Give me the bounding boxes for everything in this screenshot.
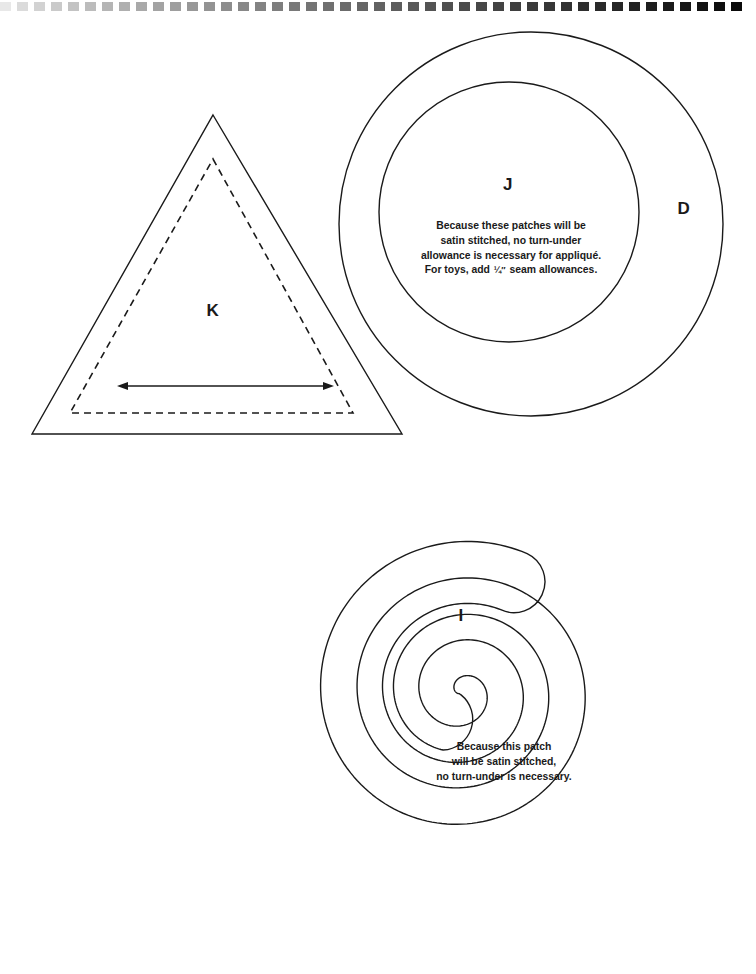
triangle-piece-k-group[interactable]: [32, 115, 402, 434]
circle-outline-j[interactable]: [379, 82, 639, 342]
note-text-after-fraction: seam allowances.: [507, 264, 598, 275]
note-line: no turn-under is necessary.: [436, 770, 572, 785]
note-line-with-fraction: For toys, add ¼″ seam allowances.: [421, 263, 601, 278]
note-line: allowance is necessary for appliqué.: [421, 249, 601, 264]
arrow-head-right-icon: [323, 382, 334, 390]
piece-label-i: I: [458, 606, 463, 626]
arrow-head-left-icon: [117, 382, 128, 390]
pattern-sheet-page: K D J I Because these patches will be sa…: [0, 0, 756, 974]
note-line: Because these patches will be: [421, 219, 601, 234]
triangle-seam-allowance-dashed-line: [70, 159, 353, 413]
note-text-before-fraction: For toys, add: [425, 264, 493, 275]
piece-label-j: J: [503, 175, 513, 195]
piece-label-k: K: [207, 301, 220, 321]
pattern-artwork: [0, 0, 756, 974]
note-line: satin stitched, no turn-under: [421, 234, 601, 249]
note-line: will be satin stitched,: [436, 755, 572, 770]
satin-stitch-instruction-note: Because this patch will be satin stitche…: [436, 740, 572, 784]
grainline-arrow: [117, 382, 334, 390]
note-line: Because this patch: [436, 740, 572, 755]
applique-instruction-note: Because these patches will be satin stit…: [421, 219, 601, 278]
piece-label-d: D: [678, 199, 691, 219]
quarter-inch-fraction: ¼″: [493, 264, 507, 277]
